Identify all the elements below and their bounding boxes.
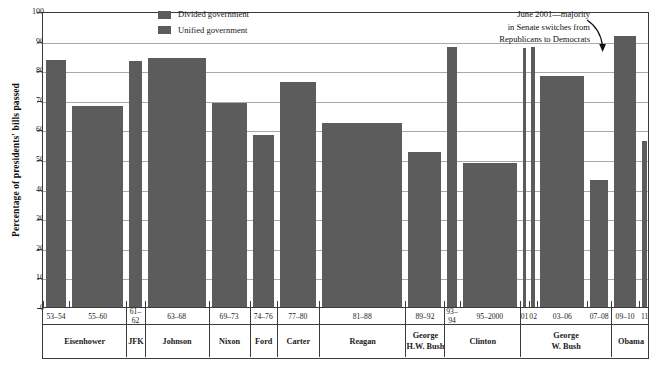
legend-item: Divided government [158, 8, 249, 22]
x-tick-mark [145, 301, 146, 307]
president-name-line1: Clinton [470, 336, 496, 347]
bar [408, 152, 441, 307]
year-cell: 89–92 [405, 308, 444, 324]
bar [463, 163, 518, 307]
president-cell: Eisenhower [43, 325, 126, 357]
x-tick-mark [277, 301, 278, 307]
x-tick-mark [444, 301, 445, 307]
year-row-separator [611, 308, 612, 324]
x-tick-mark [639, 301, 640, 307]
year-row-separator [250, 308, 251, 324]
president-name-line1: Reagan [349, 336, 375, 347]
annotation-line: in Senate switches from [380, 21, 590, 34]
x-tick-mark [611, 301, 612, 307]
x-tick-mark [460, 301, 461, 307]
year-row-separator [405, 308, 406, 324]
year-cell: 81–88 [319, 308, 406, 324]
president-name-line2: H.W. Bush [407, 341, 445, 352]
president-cell: Obama [611, 325, 650, 357]
year-row-separator [319, 308, 320, 324]
year-cell: 55–60 [69, 308, 126, 324]
president-name-line1: Nixon [219, 336, 240, 347]
year-cell: 69–73 [209, 308, 250, 324]
legend-swatch-icon [158, 26, 171, 34]
president-cell: Clinton [444, 325, 520, 357]
president-name-line1: Carter [286, 336, 310, 347]
x-tick-mark [69, 301, 70, 307]
x-tick-mark [319, 301, 320, 307]
x-axis-label-table: 53–5455–6061–6263–6869–7374–7677–8081–88… [42, 308, 649, 359]
year-cell: 77–80 [277, 308, 319, 324]
bar [212, 103, 247, 307]
year-cell: 01 [520, 308, 529, 324]
president-cell: JFK [126, 325, 144, 357]
president-cell: Reagan [319, 325, 406, 357]
president-cell: GeorgeH.W. Bush [405, 325, 444, 357]
year-cell: 63–68 [145, 308, 209, 324]
president-name-line1: Eisenhower [64, 336, 105, 347]
bar [322, 123, 403, 307]
x-tick-mark [43, 301, 44, 307]
year-cell: 09–10 [611, 308, 639, 324]
year-row-separator [126, 308, 127, 324]
x-tick-mark [126, 301, 127, 307]
president-cell: GeorgeW. Bush [520, 325, 611, 357]
year-cell: 03–06 [537, 308, 587, 324]
year-row-separator [277, 308, 278, 324]
x-tick-mark [520, 301, 521, 307]
president-name-line1: Ford [255, 336, 272, 347]
year-cell: 74–76 [250, 308, 277, 324]
bar [280, 82, 316, 307]
year-cell: 11 [639, 308, 650, 324]
president-cell: Nixon [209, 325, 250, 357]
bar [531, 47, 535, 307]
x-tick-mark [405, 301, 406, 307]
year-row-separator [209, 308, 210, 324]
president-name-line1: George [413, 330, 438, 341]
bar [447, 47, 456, 307]
x-axis-year-row: 53–5455–6061–6263–6869–7374–7677–8081–88… [43, 308, 648, 325]
year-row-separator [145, 308, 146, 324]
year-cell: 95–2000 [460, 308, 521, 324]
bar [523, 48, 527, 307]
bar [46, 60, 66, 307]
bar [614, 36, 636, 307]
legend-label: Unified government [178, 24, 247, 38]
legend-swatch-icon [158, 11, 171, 19]
year-cell: 07–08 [587, 308, 611, 324]
bar [540, 76, 584, 307]
president-name-line1: George [553, 330, 578, 341]
legend-label: Divided government [178, 8, 249, 22]
senate-switch-annotation: June 2001—majorityin Senate switches fro… [380, 8, 590, 46]
bar [590, 180, 608, 307]
plot-area [42, 12, 649, 308]
bar [253, 135, 274, 307]
president-cell: Ford [250, 325, 277, 357]
year-cell: 02 [529, 308, 538, 324]
x-tick-mark [587, 301, 588, 307]
bar [72, 106, 123, 307]
president-name-line1: Johnson [163, 336, 192, 347]
year-row-separator [520, 308, 521, 324]
year-cell: 93–94 [444, 308, 459, 324]
president-cell: Johnson [145, 325, 209, 357]
legend: Divided governmentUnified government [158, 8, 249, 39]
president-name-line1: JFK [128, 336, 143, 347]
annotation-line: Republicans to Democrats [380, 33, 590, 46]
bar-chart-figure: Percentage of presidents' bills passed 0… [0, 0, 658, 374]
president-name-line1: Obama [618, 336, 644, 347]
president-cell: Carter [277, 325, 319, 357]
x-axis-president-row: EisenhowerJFKJohnsonNixonFordCarterReaga… [43, 325, 648, 357]
legend-item: Unified government [158, 24, 249, 38]
year-cell: 61–62 [126, 308, 144, 324]
annotation-line: June 2001—majority [380, 8, 590, 21]
x-tick-mark [209, 301, 210, 307]
x-tick-mark [529, 301, 530, 307]
year-cell: 53–54 [43, 308, 69, 324]
x-tick-mark [250, 301, 251, 307]
bar [148, 58, 206, 307]
x-tick-mark [537, 301, 538, 307]
bar [642, 141, 647, 307]
year-row-separator [444, 308, 445, 324]
bar [129, 61, 141, 307]
